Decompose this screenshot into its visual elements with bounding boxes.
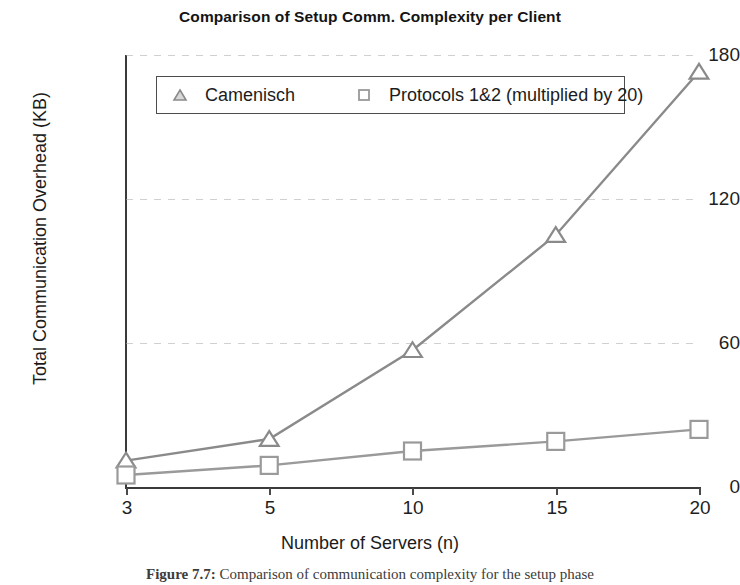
series-markers-protocols [118,421,708,484]
data-point-marker [691,421,708,438]
triangle-marker-icon [171,86,189,104]
legend-entry-protocols[interactable]: Protocols 1&2 (multiplied by 20) [355,85,643,106]
data-point-marker [261,457,278,474]
square-marker-icon [355,86,373,104]
data-point-marker [260,431,279,446]
legend-entry-camenisch[interactable]: Camenisch [171,85,295,106]
figure-container: Comparison of Setup Comm. Complexity per… [0,0,740,585]
legend-label-protocols: Protocols 1&2 (multiplied by 20) [389,85,643,106]
figure-caption-text: Comparison of communication complexity f… [219,566,594,582]
series-markers-camenisch [117,64,709,468]
data-point-marker [547,433,564,450]
data-point-marker [404,443,421,460]
figure-caption: Figure 7.7: Comparison of communication … [0,566,740,585]
series-line-camenisch [126,72,699,461]
chart-legend: Camenisch Protocols 1&2 (multiplied by 2… [156,76,625,114]
data-point-marker [690,64,709,79]
figure-caption-number: Figure 7.7: [146,566,216,582]
data-point-marker [118,467,135,484]
legend-label-camenisch: Camenisch [205,85,295,106]
